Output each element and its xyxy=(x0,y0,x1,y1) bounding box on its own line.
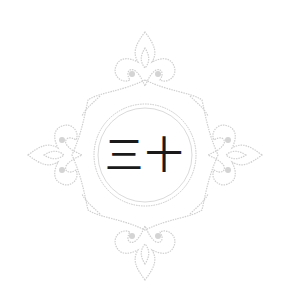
center-label: 三十 xyxy=(95,130,195,180)
